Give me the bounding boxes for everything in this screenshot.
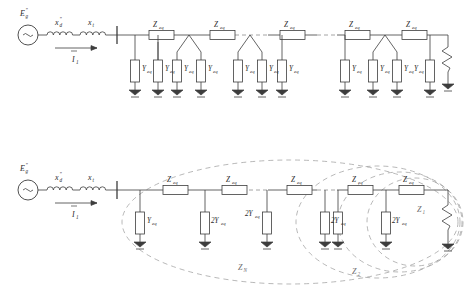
bottom-series-impedance-4 bbox=[348, 186, 373, 195]
bottom-shunt-admittance-6 bbox=[382, 212, 391, 234]
top-current-arrow bbox=[55, 46, 97, 51]
top-node-splitter-3 bbox=[373, 35, 397, 60]
bottom-current-arrow bbox=[55, 201, 97, 206]
bottom-shunt-label-4: 2Y eq bbox=[331, 217, 346, 226]
svg-text:2Y: 2Y bbox=[211, 217, 220, 225]
bottom-terminal-load bbox=[442, 190, 454, 251]
zone-label-1: Z 1 bbox=[417, 205, 426, 215]
top-shunt-label-11: Y eq bbox=[414, 65, 424, 74]
bottom-shunt-label-5: 2Y eq bbox=[392, 217, 407, 226]
circuit-diagram-svg: Z eq Z eq Z eq Z eq Z eq bbox=[0, 0, 467, 292]
bottom-series-impedance-1 bbox=[163, 186, 188, 195]
svg-text:Z: Z bbox=[238, 263, 243, 272]
top-shunt-admittance-6 bbox=[258, 60, 267, 82]
bottom-transformer-label: x t bbox=[87, 173, 95, 183]
svg-text:N: N bbox=[243, 267, 248, 273]
top-ac-source bbox=[18, 25, 38, 45]
svg-text:Z: Z bbox=[417, 205, 422, 214]
svg-text:Z: Z bbox=[167, 176, 172, 184]
svg-text:eq: eq bbox=[297, 180, 302, 185]
top-shunt-admittance-10 bbox=[393, 60, 402, 82]
svg-text:eq: eq bbox=[357, 69, 362, 74]
svg-text:eq: eq bbox=[412, 25, 417, 30]
top-series-impedance-5 bbox=[402, 31, 427, 40]
top-series-impedance-label-1: Z eq bbox=[153, 21, 164, 30]
top-node-splitter-1 bbox=[177, 35, 201, 60]
svg-text:eq: eq bbox=[189, 69, 194, 74]
svg-text:2Y: 2Y bbox=[245, 210, 254, 218]
top-shunt-admittance-9 bbox=[369, 60, 378, 82]
svg-text:t: t bbox=[93, 22, 95, 28]
top-subtransient-label: x d " bbox=[54, 16, 63, 28]
top-series-impedance-2 bbox=[210, 31, 235, 40]
bottom-subtransient-reactance-coil bbox=[47, 187, 73, 190]
top-shunt-admittance-7 bbox=[278, 60, 287, 82]
svg-text:eq: eq bbox=[170, 69, 175, 74]
svg-text:Z: Z bbox=[214, 21, 219, 29]
svg-text:Z: Z bbox=[352, 267, 357, 276]
top-shunt-admittance-4 bbox=[197, 60, 206, 82]
top-transformer-label: x t bbox=[87, 18, 95, 28]
svg-text:eq: eq bbox=[220, 25, 225, 30]
svg-text:2Y: 2Y bbox=[392, 217, 401, 225]
svg-text:1: 1 bbox=[423, 209, 426, 215]
svg-text:t: t bbox=[93, 177, 95, 183]
svg-text:d: d bbox=[60, 177, 63, 183]
bottom-series-impedance-5 bbox=[399, 186, 424, 195]
svg-text:eq: eq bbox=[221, 221, 226, 226]
top-shunt-label-10: Y eq bbox=[404, 65, 414, 74]
bottom-grounds bbox=[134, 234, 392, 249]
top-series-impedance-label-5: Z eq bbox=[406, 21, 417, 30]
bottom-shunt-admittance-1 bbox=[136, 212, 145, 234]
bottom-shunt-admittance-2 bbox=[201, 212, 210, 234]
svg-text:eq: eq bbox=[409, 180, 414, 185]
svg-text:2Y: 2Y bbox=[331, 217, 340, 225]
bottom-shunt-admittance-4 bbox=[321, 212, 330, 234]
svg-text:eq: eq bbox=[294, 69, 299, 74]
svg-text:eq: eq bbox=[152, 221, 157, 226]
top-emf-label: E g " bbox=[19, 7, 29, 19]
svg-text:eq: eq bbox=[358, 180, 363, 185]
top-shunt-label-9: Y eq bbox=[380, 65, 390, 74]
svg-text:Z: Z bbox=[406, 21, 411, 29]
svg-text:Z: Z bbox=[226, 176, 231, 184]
svg-text:eq: eq bbox=[385, 69, 390, 74]
bottom-shunt-label-2: 2Y eq bbox=[211, 217, 226, 226]
top-series-impedance-label-2: Z eq bbox=[214, 21, 225, 30]
svg-text:Z: Z bbox=[349, 21, 354, 29]
svg-text:Z: Z bbox=[403, 176, 408, 184]
bottom-series-impedance-3 bbox=[287, 186, 312, 195]
svg-text:eq: eq bbox=[341, 221, 346, 226]
svg-text:eq: eq bbox=[213, 69, 218, 74]
svg-text:2: 2 bbox=[358, 271, 361, 277]
top-shunt-admittance-5 bbox=[234, 60, 243, 82]
top-series-impedance-1 bbox=[149, 31, 174, 40]
bottom-series-impedance-label-3: Z eq bbox=[291, 176, 302, 185]
svg-text:eq: eq bbox=[290, 25, 295, 30]
top-shunt-label-5: Y eq bbox=[245, 65, 255, 74]
svg-text:eq: eq bbox=[250, 69, 255, 74]
top-shunt-label-8: Y eq bbox=[352, 65, 362, 74]
top-shunt-label-7: Y eq bbox=[289, 65, 299, 74]
svg-text:x: x bbox=[54, 173, 59, 182]
svg-text:Z: Z bbox=[352, 176, 357, 184]
svg-text:eq: eq bbox=[147, 69, 152, 74]
bottom-series-impedance-label-5: Z eq bbox=[403, 176, 414, 185]
top-shunt-label-3: Y eq bbox=[184, 65, 194, 74]
svg-text:eq: eq bbox=[355, 25, 360, 30]
bottom-series-impedance-2 bbox=[222, 186, 247, 195]
svg-text:1: 1 bbox=[76, 59, 79, 65]
svg-text:g: g bbox=[26, 168, 29, 174]
svg-text:eq: eq bbox=[255, 214, 260, 219]
top-terminal-load bbox=[442, 35, 454, 91]
bottom-ac-source bbox=[18, 180, 38, 200]
top-subtransient-reactance-coil bbox=[47, 32, 73, 35]
svg-text:1: 1 bbox=[76, 214, 79, 220]
top-node-splitter-2 bbox=[238, 35, 262, 60]
svg-text:E: E bbox=[19, 164, 25, 173]
svg-text:g: g bbox=[26, 13, 29, 19]
svg-text:E: E bbox=[19, 9, 25, 18]
top-series-impedance-4 bbox=[345, 31, 370, 40]
top-shunt-label-1: Y eq bbox=[142, 65, 152, 74]
top-series-impedance-label-3: Z eq bbox=[284, 21, 295, 30]
